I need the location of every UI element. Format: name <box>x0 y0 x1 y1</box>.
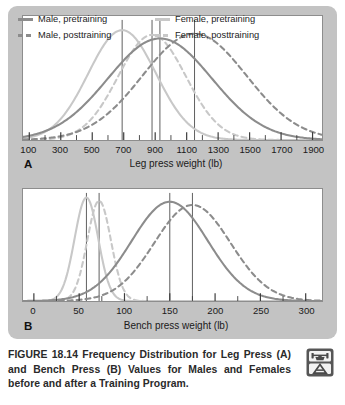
legend-item-male-posttraining: Male, posttraining <box>18 31 155 40</box>
x-tick-label: 200 <box>207 304 223 317</box>
series-curve <box>23 198 322 301</box>
panel-b: 050100150200250300 B Bench press weight … <box>8 178 337 339</box>
figure-caption-label: FIGURE 18.14 <box>8 349 78 360</box>
legend-item-female-posttraining: Female, posttraining <box>155 31 294 40</box>
weightlifter-icon <box>306 348 334 377</box>
panel-b-x-tick-labels: 050100150200250300 <box>22 304 323 317</box>
x-tick-label: 250 <box>253 304 269 317</box>
x-tick-label: 100 <box>116 304 132 317</box>
x-tick-label: 700 <box>115 143 131 156</box>
legend-label-male-posttraining: Male, posttraining <box>38 31 111 40</box>
panel-b-plot-box <box>22 188 323 302</box>
legend-swatch-male-pretraining <box>18 18 33 21</box>
legend-swatch-female-pretraining <box>155 18 170 21</box>
legend-label-female-pretraining: Female, pretraining <box>175 15 255 24</box>
x-tick-label: 1500 <box>239 143 260 156</box>
series-curve <box>23 35 322 140</box>
x-tick-label: 1900 <box>303 143 324 156</box>
legend-label-female-posttraining: Female, posttraining <box>175 31 259 40</box>
figure-caption-text: FIGURE 18.14 Frequency Distribution for … <box>8 348 291 392</box>
legend-swatch-female-posttraining <box>155 34 170 37</box>
panel-a-letter: A <box>24 158 32 170</box>
x-tick-label: 1100 <box>176 143 197 156</box>
legend-item-female-pretraining: Female, pretraining <box>155 15 294 24</box>
panel-a-legend: Male, pretraining Female, pretraining Ma… <box>18 12 294 44</box>
panel-a-x-axis-title: Leg press weight (lb) <box>130 158 223 170</box>
legend-swatch-male-posttraining <box>18 34 33 37</box>
series-curve <box>23 205 322 301</box>
series-curve <box>23 34 322 140</box>
figure-18-14: Male, pretraining Female, pretraining Ma… <box>0 0 345 405</box>
x-tick-label: 300 <box>299 304 315 317</box>
panel-b-curves <box>23 189 322 301</box>
x-tick-label: 50 <box>73 304 84 317</box>
series-curve <box>23 30 322 140</box>
panel-a-x-tick-labels: 10030050070090011001300150017001900 <box>22 143 323 156</box>
x-tick-label: 1300 <box>208 143 229 156</box>
panel-b-letter: B <box>24 320 32 332</box>
x-tick-label: 500 <box>84 143 100 156</box>
legend-item-male-pretraining: Male, pretraining <box>18 15 155 24</box>
x-tick-label: 150 <box>162 304 178 317</box>
x-tick-label: 300 <box>52 143 68 156</box>
figure-caption: FIGURE 18.14 Frequency Distribution for … <box>8 346 337 402</box>
charts-card: Male, pretraining Female, pretraining Ma… <box>8 6 337 339</box>
x-tick-label: 900 <box>147 143 163 156</box>
x-tick-label: 0 <box>30 304 35 317</box>
x-tick-label: 1700 <box>271 143 292 156</box>
x-tick-label: 100 <box>20 143 36 156</box>
panel-a: Male, pretraining Female, pretraining Ma… <box>8 6 337 178</box>
legend-label-male-pretraining: Male, pretraining <box>38 15 107 24</box>
panel-b-x-axis-title: Bench press weight (lb) <box>124 320 229 332</box>
